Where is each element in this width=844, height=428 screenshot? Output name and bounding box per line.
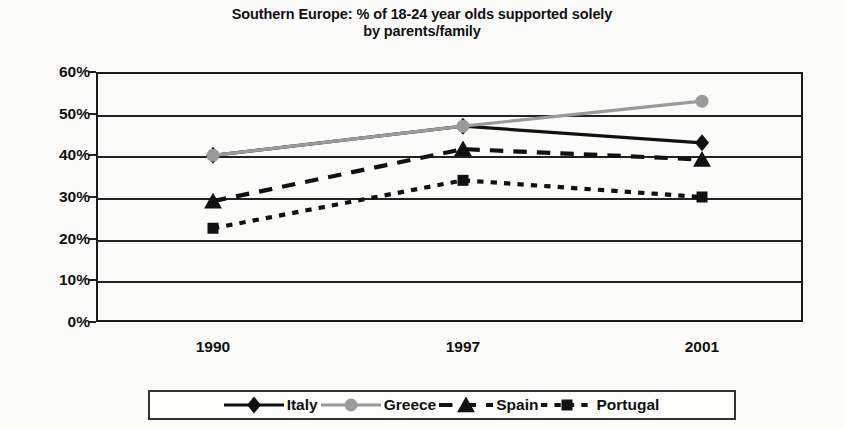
gridline xyxy=(98,240,801,242)
y-axis-tickmark xyxy=(89,113,96,115)
gridline xyxy=(98,198,801,200)
legend-swatch-circle-icon xyxy=(320,395,382,415)
legend-item-italy[interactable]: Italy xyxy=(223,392,320,418)
legend-swatch-square-icon xyxy=(540,395,594,415)
gridline xyxy=(98,281,801,283)
chart-title-line-1: Southern Europe: % of 18-24 year olds su… xyxy=(110,6,734,23)
y-axis-tick-label: 40% xyxy=(4,147,90,163)
legend-item-portugal[interactable]: Portugal xyxy=(540,392,661,418)
x-axis-tick-label: 1997 xyxy=(403,338,523,356)
y-axis-tickmark xyxy=(89,71,96,73)
gridline xyxy=(98,115,801,117)
x-axis-tick-label: 2001 xyxy=(642,338,762,356)
y-axis-tickmark xyxy=(89,238,96,240)
legend-swatch-triangle-icon xyxy=(438,395,494,415)
chart-title-line-2: by parents/family xyxy=(110,23,734,40)
legend-label: Spain xyxy=(494,397,540,413)
legend-label: Italy xyxy=(285,397,320,413)
y-axis-tickmark xyxy=(89,279,96,281)
x-axis-tick-label: 1990 xyxy=(153,338,273,356)
gridline xyxy=(98,156,801,158)
y-axis-tick-label: 20% xyxy=(4,231,90,247)
y-axis: 0%10%20%30%40%50%60% xyxy=(0,0,90,428)
legend-item-greece[interactable]: Greece xyxy=(320,392,439,418)
chart-title: Southern Europe: % of 18-24 year olds su… xyxy=(110,6,734,40)
y-axis-tickmark xyxy=(89,154,96,156)
y-axis-tick-label: 30% xyxy=(4,189,90,205)
legend-label: Greece xyxy=(382,397,439,413)
chart-container: Southern Europe: % of 18-24 year olds su… xyxy=(0,0,844,428)
y-axis-tick-label: 60% xyxy=(4,64,90,80)
legend-item-spain[interactable]: Spain xyxy=(438,392,540,418)
y-axis-tickmark xyxy=(89,196,96,198)
plot-area xyxy=(96,72,803,322)
legend-swatch-diamond-icon xyxy=(223,395,285,415)
y-axis-tick-label: 0% xyxy=(4,314,90,330)
y-axis-tick-label: 50% xyxy=(4,106,90,122)
legend-label: Portugal xyxy=(594,397,661,413)
y-axis-tick-label: 10% xyxy=(4,272,90,288)
chart-legend: ItalyGreeceSpainPortugal xyxy=(148,390,736,420)
y-axis-tickmark xyxy=(89,321,96,323)
